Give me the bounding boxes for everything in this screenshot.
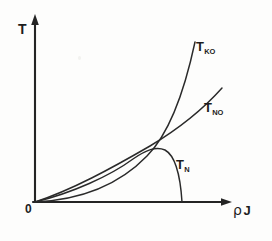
x-axis-arrow-icon bbox=[221, 198, 232, 206]
curve-t-no bbox=[35, 88, 222, 202]
t-n-subscript: N bbox=[184, 165, 189, 174]
x-axis-label: ρJ bbox=[233, 203, 251, 217]
y-axis-label: T bbox=[18, 22, 27, 36]
t-n-base: T bbox=[176, 157, 184, 172]
t-ko-subscript: KO bbox=[204, 47, 215, 56]
curve-label-t-ko: TKO bbox=[196, 40, 215, 53]
j-symbol: J bbox=[243, 203, 250, 218]
curve-t-ko bbox=[35, 42, 195, 202]
curve-label-t-no: TNO bbox=[204, 101, 223, 114]
t-ko-base: T bbox=[196, 39, 204, 54]
plot-canvas bbox=[0, 0, 272, 241]
rho-symbol: ρ bbox=[233, 202, 242, 218]
origin-label: 0 bbox=[25, 203, 32, 215]
t-no-base: T bbox=[204, 100, 212, 115]
curve-label-t-n: TN bbox=[176, 158, 189, 171]
y-axis-arrow-icon bbox=[31, 14, 39, 25]
phase-diagram-figure: T 0 ρJ TKO TNO TN bbox=[0, 0, 272, 241]
t-no-subscript: NO bbox=[212, 108, 223, 117]
